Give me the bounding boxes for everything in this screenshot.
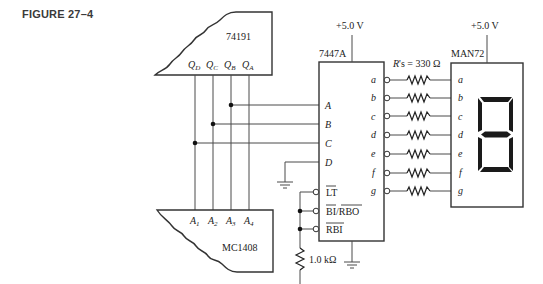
disp-b-label: b [458,92,463,103]
counter-name: 74191 [226,31,251,42]
segment-lines [384,76,451,195]
out-a-label: a [371,74,376,85]
pin-b-label: B [325,119,331,130]
junction-dot [211,122,216,127]
resistor-icon [407,131,430,139]
decoder-name: 7447A [319,48,347,59]
display-name: MAN72 [451,48,484,59]
display-man72: +5.0 V MAN72 a b c d e f g [451,20,523,207]
pullup-label: 1.0 kΩ [309,254,336,265]
segment-line-f [384,169,451,177]
circuit-diagram: 74191 QD QC QB QA A1 A2 A3 A4 MC1408 [0,0,543,284]
display-supply-label: +5.0 V [471,20,499,31]
segment-resistors: R's = 330 Ω [392,58,440,69]
segment-resistor-label: R's = 330 Ω [392,58,440,69]
junction-dot [193,141,198,146]
resistor-icon [407,187,430,195]
segment-line-a [384,76,451,84]
disp-g-label: g [458,185,463,196]
resistor-icon [407,112,430,120]
pin-bi-rbo-label: BI/RBO [326,206,359,217]
decoder-7447a: +5.0 V 7447A A B C D LT BI/RBO RBI a b c… [319,20,384,268]
disp-a-label: a [458,74,463,85]
junction-dot [229,103,234,108]
resistor-icon [407,169,430,177]
resistor-icon [407,94,430,102]
dac-mc1408: A1 A2 A3 A4 MC1408 [157,210,273,272]
out-g-label: g [371,185,376,196]
out-e-label: e [371,148,376,159]
segment-line-e [384,150,451,158]
resistor-icon [407,150,430,158]
segment-line-g [384,187,451,195]
segment-line-b [384,94,451,102]
decoder-supply-label: +5.0 V [336,20,364,31]
dac-name: MC1408 [222,242,258,253]
out-c-label: c [371,111,376,122]
pin-d-label: D [324,157,333,168]
pin-rbi-label: RBI [326,224,343,235]
pullup-resistor [296,248,304,270]
disp-c-label: c [458,111,463,122]
segment-line-d [384,131,451,139]
pin-a-label: A [324,100,332,111]
d-input-ground [277,162,319,188]
disp-e-label: e [458,148,463,159]
counter-74191: 74191 QD QC QB QA [155,12,272,75]
segment-line-c [384,112,451,120]
resistor-icon [407,76,430,84]
pin-c-label: C [325,138,332,149]
data-bus [193,75,319,210]
out-b-label: b [371,92,376,103]
pin-lt-label: LT [326,187,337,198]
